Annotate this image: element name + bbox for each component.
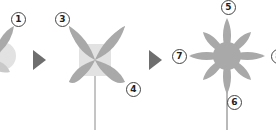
marker-1: 1	[11, 12, 26, 27]
marker-3: 3	[55, 12, 70, 27]
marker-6: 6	[227, 95, 242, 110]
arrow-right-icon	[149, 50, 162, 70]
arrow-right-icon	[33, 50, 46, 70]
marker-5: 5	[221, 0, 236, 15]
step-3-flower	[189, 18, 265, 130]
step-2-flower	[69, 26, 125, 130]
marker-4: 4	[126, 82, 141, 97]
diagram-canvas	[0, 0, 276, 130]
diagram-stage: 1 3 4 5 6 7 8	[0, 0, 276, 130]
step-1-shape	[0, 26, 16, 73]
flower-center	[213, 42, 241, 70]
marker-7: 7	[172, 49, 187, 64]
